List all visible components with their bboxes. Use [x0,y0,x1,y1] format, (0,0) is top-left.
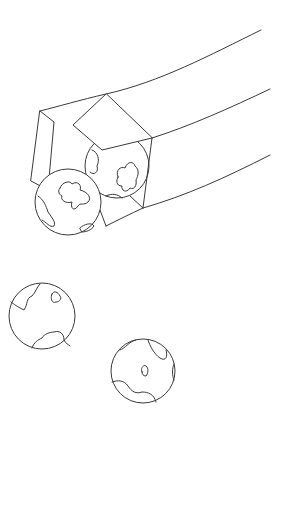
mouth-face [73,94,152,150]
ball-front [35,169,101,235]
mouth-edge [100,210,106,226]
mouth-edge [130,196,143,208]
drawing-canvas [0,0,281,516]
barrel-top-edge [40,30,261,111]
barrel-middle-edge [152,89,270,138]
ball-lower-left [9,283,75,349]
ball-lower-right [111,339,175,403]
cannon-illustration [0,0,281,516]
